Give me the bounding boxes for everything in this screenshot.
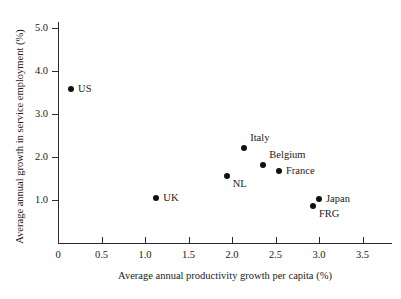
data-point bbox=[316, 196, 322, 202]
x-tick-label: 3.0 bbox=[304, 249, 334, 260]
data-point bbox=[68, 86, 74, 92]
data-point-label: US bbox=[78, 83, 91, 94]
data-point bbox=[224, 173, 230, 179]
x-tick bbox=[363, 237, 364, 243]
y-axis-line bbox=[58, 22, 59, 243]
x-tick-label: 3.5 bbox=[348, 249, 378, 260]
x-tick bbox=[102, 237, 103, 243]
y-tick bbox=[52, 71, 58, 72]
x-tick bbox=[276, 237, 277, 243]
x-tick-label: 1.5 bbox=[174, 249, 204, 260]
x-tick bbox=[319, 237, 320, 243]
x-tick bbox=[145, 237, 146, 243]
data-point-label: Italy bbox=[250, 132, 269, 143]
y-tick-label: 4.0 bbox=[24, 65, 48, 76]
data-point-label: France bbox=[286, 165, 315, 176]
y-tick-label: 1.0 bbox=[24, 194, 48, 205]
data-point-label: Japan bbox=[326, 193, 350, 204]
y-tick bbox=[52, 157, 58, 158]
y-tick bbox=[52, 28, 58, 29]
data-point-label: FRG bbox=[319, 208, 339, 219]
data-point bbox=[153, 195, 159, 201]
x-tick-label: 2.5 bbox=[261, 249, 291, 260]
data-point bbox=[310, 203, 316, 209]
x-axis-title: Average annual productivity growth per c… bbox=[58, 270, 392, 281]
x-tick bbox=[189, 237, 190, 243]
data-point bbox=[276, 168, 282, 174]
x-tick-label: 2.0 bbox=[217, 249, 247, 260]
data-point-label: Belgium bbox=[269, 149, 305, 160]
y-tick bbox=[52, 114, 58, 115]
scatter-chart: 1.02.03.04.05.0 00.51.01.52.02.53.03.5 U… bbox=[0, 0, 401, 299]
x-tick-label: 0.5 bbox=[87, 249, 117, 260]
y-axis-title: Average annual growth in service employm… bbox=[14, 22, 25, 252]
plot-area: 1.02.03.04.05.0 00.51.01.52.02.53.03.5 U… bbox=[0, 0, 401, 299]
y-tick-label: 3.0 bbox=[24, 108, 48, 119]
data-point-label: UK bbox=[163, 192, 178, 203]
data-point bbox=[241, 145, 247, 151]
x-axis-line bbox=[58, 243, 392, 244]
data-point-label: NL bbox=[233, 178, 247, 189]
data-point bbox=[260, 162, 266, 168]
x-tick-label: 0 bbox=[43, 249, 73, 260]
y-tick-label: 5.0 bbox=[24, 22, 48, 33]
y-tick-label: 2.0 bbox=[24, 151, 48, 162]
x-tick bbox=[232, 237, 233, 243]
x-tick-label: 1.0 bbox=[130, 249, 160, 260]
y-tick bbox=[52, 200, 58, 201]
